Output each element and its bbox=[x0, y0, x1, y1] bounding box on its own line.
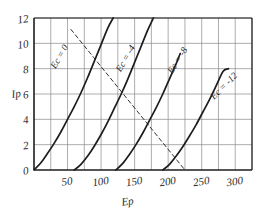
chart-canvas: 50100150200250300024681012 Ec = 0Ec = -4… bbox=[0, 0, 269, 215]
y-tick-label: 10 bbox=[17, 37, 30, 50]
x-tick-label: 200 bbox=[159, 174, 178, 188]
x-tick-label: 250 bbox=[192, 174, 211, 188]
x-tick-label: 100 bbox=[92, 174, 111, 188]
x-tick-label: 50 bbox=[61, 174, 74, 187]
y-tick-label: 12 bbox=[17, 12, 30, 25]
plate-characteristic-chart: 50100150200250300024681012 Ec = 0Ec = -4… bbox=[0, 0, 269, 215]
x-axis-title: Ep bbox=[120, 194, 135, 208]
x-tick-label: 300 bbox=[225, 174, 244, 188]
x-tick-label: 150 bbox=[125, 174, 144, 188]
